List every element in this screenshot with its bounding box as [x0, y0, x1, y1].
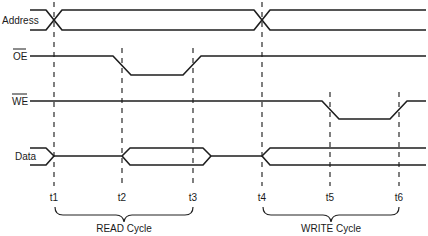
read-cycle-label: READ Cycle — [96, 223, 152, 234]
time-label-t5: t5 — [326, 192, 335, 203]
signal-label-data: Data — [15, 151, 37, 162]
write-cycle-label: WRITE Cycle — [301, 223, 361, 234]
time-label-t6: t6 — [395, 192, 404, 203]
oe-waveform — [30, 56, 426, 75]
time-labels: t1 t2 t3 t4 t5 t6 — [50, 192, 404, 203]
timing-diagram: Address OE WE Data t1 t2 t3 t4 t5 t6 REA… — [0, 0, 428, 236]
time-label-t1: t1 — [50, 192, 59, 203]
time-label-t2: t2 — [118, 192, 127, 203]
time-label-t3: t3 — [189, 192, 198, 203]
write-cycle-brace — [263, 207, 399, 222]
signal-label-we: WE — [12, 96, 28, 107]
read-cycle-brace — [55, 207, 193, 222]
signal-label-oe: OE — [13, 51, 28, 62]
data-waveform — [30, 148, 426, 165]
address-waveform — [30, 10, 426, 30]
we-waveform — [30, 101, 426, 119]
time-label-t4: t4 — [258, 192, 267, 203]
signal-label-address: Address — [2, 15, 39, 26]
